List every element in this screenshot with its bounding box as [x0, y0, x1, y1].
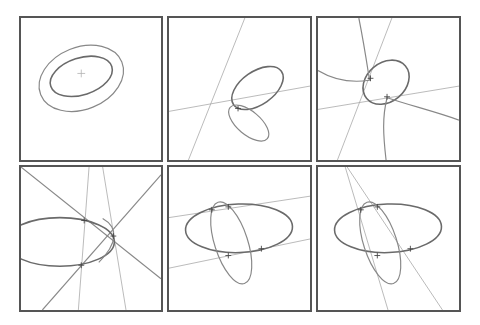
panel-1-drawing [21, 18, 161, 160]
panel-5-drawing [169, 167, 310, 310]
intersection-mark-4 [374, 253, 380, 259]
hyperbola-branch-left [318, 18, 370, 81]
hyperbola-branch-right [384, 98, 459, 160]
panel-2-tangent-ellipses [167, 16, 312, 162]
horizontal-ellipse [185, 202, 294, 254]
near-vertical-line-1 [78, 167, 89, 310]
panel-3-drawing [318, 18, 459, 160]
panel-4-drawing [21, 167, 161, 310]
center-cross-icon [77, 70, 85, 78]
steep-line [345, 167, 388, 310]
panel-6-drawing [318, 167, 459, 310]
panel-2-drawing [169, 18, 310, 160]
diagonal-line-up [42, 175, 161, 310]
tilted-ellipse [351, 197, 409, 289]
panel-4-ellipse-lines [19, 165, 163, 312]
panel-3-ellipse-hyperbola [316, 16, 461, 162]
outer-ellipse [29, 33, 133, 123]
panel-1-nested-ellipses [19, 16, 163, 162]
upper-ellipse [224, 58, 291, 119]
steep-line [188, 18, 244, 160]
lower-line [169, 239, 310, 268]
tilted-ellipse [202, 197, 260, 289]
upper-line [169, 196, 310, 217]
shallow-line [169, 86, 310, 111]
panel-6-converging-lines [316, 165, 461, 312]
intersection-mark-4 [225, 253, 231, 259]
panel-5-parallel-lines [167, 165, 312, 312]
horizontal-ellipse [21, 218, 114, 267]
lower-ellipse [223, 98, 275, 147]
